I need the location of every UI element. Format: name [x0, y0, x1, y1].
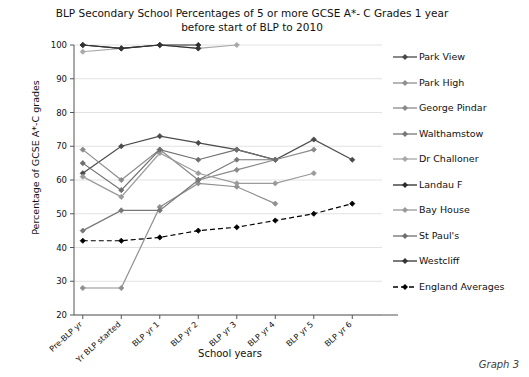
- data-point: [234, 181, 239, 186]
- legend-marker-icon: [392, 127, 418, 141]
- x-axis-tick-label: BLP yr 4: [246, 320, 277, 349]
- data-point: [80, 174, 85, 179]
- chart-title-line-1: BLP Secondary School Percentages of 5 or…: [52, 6, 452, 20]
- y-axis-tick-label: 90: [56, 74, 67, 84]
- series-park-high: [80, 181, 278, 291]
- data-point: [234, 42, 239, 47]
- legend-item-label: Dr Challoner: [419, 153, 479, 164]
- data-point: [157, 42, 162, 47]
- data-point: [157, 235, 162, 240]
- data-point: [273, 201, 278, 206]
- data-point: [196, 228, 201, 233]
- data-point: [273, 218, 278, 223]
- y-axis-label: Percentage of GCSE A*-C grades: [30, 38, 41, 278]
- y-axis-tick-label: 100: [51, 40, 67, 50]
- data-point: [311, 211, 316, 216]
- chart-container: BLP Secondary School Percentages of 5 or…: [0, 0, 529, 377]
- data-point: [273, 157, 278, 162]
- legend-item-label: Landau F: [419, 179, 463, 190]
- x-axis-tick-label: BLP yr 2: [169, 320, 200, 349]
- graph-caption: Graph 3: [479, 359, 519, 370]
- data-point: [350, 157, 355, 162]
- series-westcliff: [80, 42, 201, 51]
- data-point: [196, 171, 201, 176]
- legend-marker-icon: [392, 229, 418, 243]
- data-point: [234, 147, 239, 152]
- data-point: [196, 157, 201, 162]
- data-point: [119, 208, 124, 213]
- legend-item-label: Park High: [419, 77, 464, 88]
- data-point: [311, 147, 316, 152]
- y-axis-tick-label: 70: [56, 141, 67, 151]
- legend-marker-icon: [392, 50, 418, 64]
- data-point: [234, 167, 239, 172]
- data-point: [119, 285, 124, 290]
- chart-title: BLP Secondary School Percentages of 5 or…: [52, 6, 452, 34]
- y-axis-tick-label: 40: [56, 243, 67, 253]
- data-point: [350, 201, 355, 206]
- legend-marker-icon: [392, 152, 418, 166]
- series-walthamstow: [80, 157, 278, 233]
- legend-item-label: George Pindar: [419, 102, 487, 113]
- chart-title-line-2: before start of BLP to 2010: [52, 20, 452, 34]
- data-point: [311, 137, 316, 142]
- x-axis-label: School years: [120, 348, 340, 359]
- series-line: [83, 150, 276, 191]
- legend-marker-icon: [392, 101, 418, 115]
- legend-item-label: St Paul's: [419, 230, 459, 241]
- data-point: [80, 285, 85, 290]
- legend-item-label: Bay House: [419, 204, 470, 215]
- legend-item-label: Westcliff: [419, 255, 459, 266]
- data-point: [80, 238, 85, 243]
- data-point: [196, 140, 201, 145]
- data-point: [234, 225, 239, 230]
- data-point: [273, 181, 278, 186]
- y-axis-tick-label: 80: [56, 108, 67, 118]
- data-point: [80, 49, 85, 54]
- data-point: [311, 171, 316, 176]
- legend-marker-icon: [392, 254, 418, 268]
- x-axis-tick-label: BLP yr 6: [323, 320, 354, 349]
- y-axis-tick-label: 60: [56, 175, 67, 185]
- legend-item-label: Walthamstow: [419, 128, 483, 139]
- y-axis-tick-label: 20: [56, 310, 67, 320]
- data-point: [119, 238, 124, 243]
- legend-item-label: Park View: [419, 51, 465, 62]
- legend-marker-icon: [392, 76, 418, 90]
- y-axis-tick-label: 30: [56, 276, 67, 286]
- x-axis-tick-label: Pre-BLP yr: [48, 319, 85, 353]
- data-point: [119, 46, 124, 51]
- data-point: [157, 134, 162, 139]
- series-line: [83, 183, 276, 288]
- data-point: [234, 157, 239, 162]
- x-axis-tick-label: BLP yr 5: [285, 320, 316, 349]
- legend-marker-icon: [392, 178, 418, 192]
- data-point: [80, 42, 85, 47]
- legend-marker-icon: [392, 203, 418, 217]
- data-point: [80, 228, 85, 233]
- series-line: [83, 160, 276, 231]
- x-axis-tick-label: BLP yr 3: [208, 320, 239, 349]
- data-point: [196, 46, 201, 51]
- legend-marker-icon: [392, 280, 418, 294]
- x-axis-tick-label: BLP yr 1: [131, 320, 162, 349]
- legend-item-label: England Averages: [419, 281, 505, 292]
- y-axis-tick-label: 50: [56, 209, 67, 219]
